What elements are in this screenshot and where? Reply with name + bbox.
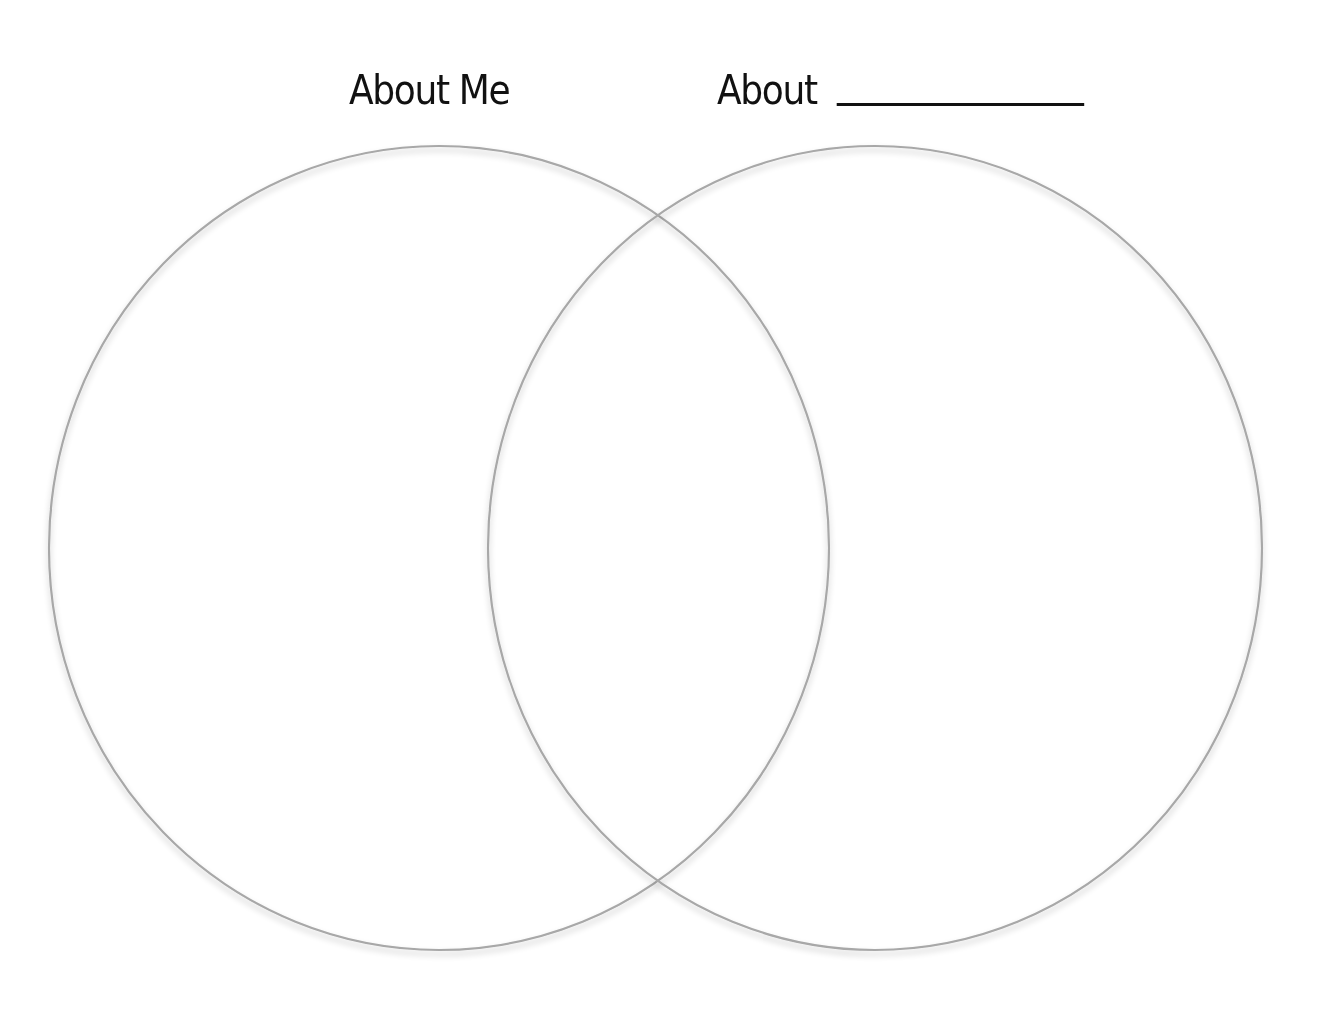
venn-diagram — [0, 0, 1318, 1014]
left-circle[interactable] — [49, 146, 829, 950]
right-circle[interactable] — [488, 146, 1262, 950]
